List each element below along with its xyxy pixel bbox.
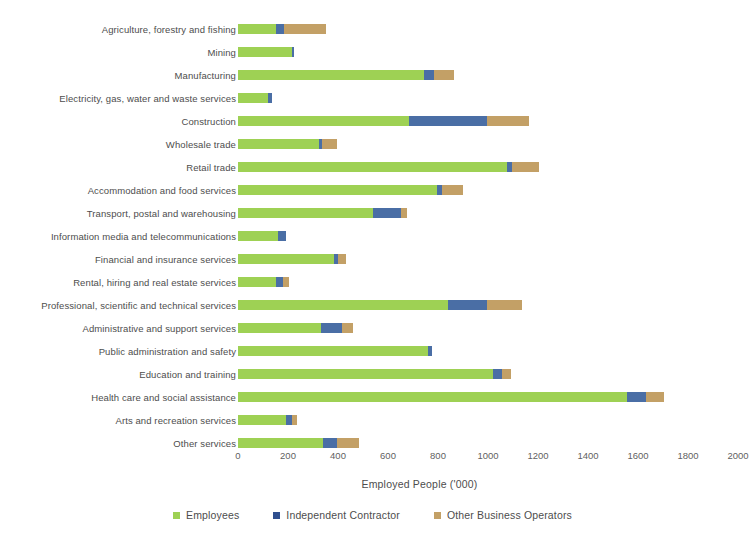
bar-segment	[238, 116, 409, 126]
bar-segment	[292, 47, 295, 57]
category-label: Construction	[181, 110, 236, 133]
bar-segment	[238, 346, 428, 356]
category-label: Education and training	[139, 363, 236, 386]
legend-label: Other Business Operators	[447, 509, 572, 521]
stacked-bar	[238, 415, 297, 425]
category-label: Public administration and safety	[99, 340, 236, 363]
bar-row: Education and training	[0, 363, 745, 386]
legend-label: Employees	[186, 509, 239, 521]
x-axis-title-text: Employed People ('000)	[361, 478, 477, 490]
legend-swatch-icon	[273, 512, 280, 519]
category-label: Wholesale trade	[166, 133, 236, 156]
stacked-bar	[238, 24, 326, 34]
bar-segment	[238, 139, 319, 149]
bar-segment	[493, 369, 502, 379]
bar-segment	[342, 323, 353, 333]
bar-row: Rental, hiring and real estate services	[0, 271, 745, 294]
x-axis-title: Employed People ('000)	[0, 478, 745, 490]
stacked-bar	[238, 254, 346, 264]
stacked-bar	[238, 346, 432, 356]
legend-swatch-icon	[434, 512, 441, 519]
bar-segment	[276, 277, 284, 287]
bar-row: Agriculture, forestry and fishing	[0, 18, 745, 41]
bar-segment	[338, 254, 346, 264]
bar-segment	[238, 208, 373, 218]
bar-segment	[487, 116, 530, 126]
category-label: Agriculture, forestry and fishing	[102, 18, 236, 41]
bar-segment	[292, 415, 297, 425]
bar-segment	[276, 24, 285, 34]
bar-segment	[323, 438, 337, 448]
bar-segment	[238, 438, 323, 448]
legend-item[interactable]: Employees	[173, 509, 239, 521]
bar-row: Electricity, gas, water and waste servic…	[0, 87, 745, 110]
bar-segment	[283, 277, 289, 287]
bar-row: Wholesale trade	[0, 133, 745, 156]
legend-item[interactable]: Other Business Operators	[434, 509, 572, 521]
bar-segment	[238, 93, 268, 103]
category-label: Manufacturing	[174, 64, 236, 87]
bar-row: Manufacturing	[0, 64, 745, 87]
category-label: Retail trade	[186, 156, 236, 179]
stacked-bar	[238, 70, 454, 80]
category-label: Arts and recreation services	[115, 409, 236, 432]
category-label: Accommodation and food services	[88, 179, 236, 202]
stacked-bar	[238, 369, 511, 379]
bar-segment	[238, 300, 448, 310]
bar-segment	[238, 24, 276, 34]
bar-segment	[401, 208, 407, 218]
bar-segment	[238, 231, 278, 241]
bar-segment	[238, 162, 507, 172]
bar-segment	[238, 277, 276, 287]
bar-row: Construction	[0, 110, 745, 133]
bar-segment	[321, 323, 342, 333]
bar-segment	[434, 70, 454, 80]
legend-label: Independent Contractor	[286, 509, 400, 521]
stacked-bar	[238, 300, 522, 310]
category-label: Professional, scientific and technical s…	[41, 294, 236, 317]
stacked-bar	[238, 116, 529, 126]
stacked-bar	[238, 185, 463, 195]
bar-segment	[442, 185, 463, 195]
bar-segment	[428, 346, 432, 356]
bar-segment	[238, 392, 627, 402]
bar-segment	[502, 369, 511, 379]
bar-row: Health care and social assistance	[0, 386, 745, 409]
stacked-bar	[238, 139, 337, 149]
stacked-bar	[238, 47, 294, 57]
x-axis: 0200400600800100012001400160018002000	[0, 450, 745, 472]
bar-segment	[268, 93, 272, 103]
bar-segment	[448, 300, 487, 310]
stacked-bar	[238, 231, 286, 241]
bar-segment	[238, 70, 424, 80]
bar-segment	[424, 70, 434, 80]
bar-segment	[238, 47, 292, 57]
bar-segment	[409, 116, 487, 126]
bar-segment	[487, 300, 522, 310]
x-axis-tick: 2000	[708, 450, 753, 461]
bar-segment	[627, 392, 646, 402]
category-label: Administrative and support services	[83, 317, 236, 340]
bar-row: Mining	[0, 41, 745, 64]
legend-item[interactable]: Independent Contractor	[273, 509, 400, 521]
bar-segment	[238, 185, 437, 195]
bar-row: Information media and telecommunications	[0, 225, 745, 248]
bar-segment	[284, 24, 325, 34]
bar-segment	[238, 415, 286, 425]
category-label: Mining	[207, 41, 236, 64]
bar-segment	[322, 139, 337, 149]
bar-row: Retail trade	[0, 156, 745, 179]
stacked-bar	[238, 162, 539, 172]
bar-row: Transport, postal and warehousing	[0, 202, 745, 225]
plot-area: Agriculture, forestry and fishingMiningM…	[0, 18, 745, 450]
bar-row: Administrative and support services	[0, 317, 745, 340]
stacked-bar	[238, 93, 272, 103]
bar-segment	[646, 392, 665, 402]
category-label: Transport, postal and warehousing	[87, 202, 236, 225]
category-label: Health care and social assistance	[91, 386, 236, 409]
bar-row: Accommodation and food services	[0, 179, 745, 202]
bar-segment	[337, 438, 360, 448]
chart-legend: EmployeesIndependent ContractorOther Bus…	[0, 509, 745, 521]
bar-row: Public administration and safety	[0, 340, 745, 363]
